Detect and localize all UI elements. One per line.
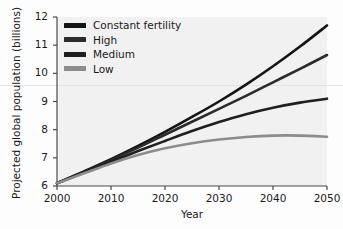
y-tick-label: 6 bbox=[24, 179, 48, 191]
x-tick-label: 2020 bbox=[143, 192, 187, 204]
y-tick-label: 12 bbox=[24, 10, 48, 22]
legend-label: Constant fertility bbox=[93, 20, 181, 31]
y-tick-label: 10 bbox=[24, 66, 48, 78]
series-line-low bbox=[57, 135, 327, 183]
y-tick-label: 9 bbox=[24, 95, 48, 107]
legend-item-medium[interactable]: Medium bbox=[64, 47, 181, 62]
chart-legend: Constant fertilityHighMediumLow bbox=[64, 18, 181, 76]
series-line-medium bbox=[57, 99, 327, 183]
legend-swatch-icon bbox=[64, 66, 86, 71]
legend-item-constant-fertility[interactable]: Constant fertility bbox=[64, 18, 181, 33]
legend-label: Medium bbox=[93, 49, 135, 60]
legend-swatch-icon bbox=[64, 23, 86, 28]
legend-swatch-icon bbox=[64, 37, 86, 42]
legend-item-low[interactable]: Low bbox=[64, 62, 181, 77]
y-tick-label: 8 bbox=[24, 123, 48, 135]
x-tick-label: 2010 bbox=[89, 192, 133, 204]
x-tick-label: 2040 bbox=[251, 192, 295, 204]
chart-figure: 6789101112 200020102020203020402050 Proj… bbox=[0, 0, 343, 229]
legend-swatch-icon bbox=[64, 52, 86, 57]
x-axis-title: Year bbox=[57, 208, 327, 220]
x-tick-label: 2030 bbox=[197, 192, 241, 204]
y-tick-label: 7 bbox=[24, 151, 48, 163]
y-axis-title: Projected global population (billions) bbox=[10, 13, 22, 199]
legend-label: Low bbox=[93, 64, 114, 75]
x-tick-label: 2000 bbox=[35, 192, 79, 204]
legend-label: High bbox=[93, 35, 117, 46]
legend-item-high[interactable]: High bbox=[64, 33, 181, 48]
x-tick-label: 2050 bbox=[305, 192, 343, 204]
y-tick-label: 11 bbox=[24, 38, 48, 50]
